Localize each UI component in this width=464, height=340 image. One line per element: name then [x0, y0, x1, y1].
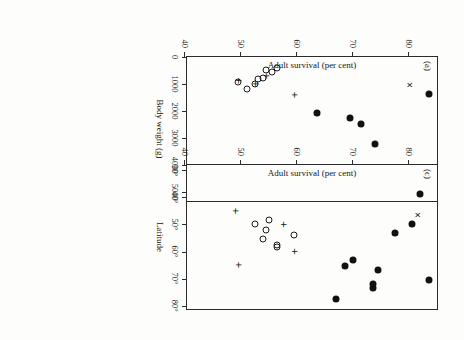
- panel-c-xtick: [182, 252, 187, 253]
- panel-c-point-open-circle: [252, 221, 259, 228]
- panel-c-ytick-label: 70: [348, 148, 358, 157]
- panel-c-point-plus: +: [290, 247, 299, 256]
- panel-c-ytick: [352, 160, 353, 165]
- panel-a-ytick: [296, 52, 297, 57]
- panel-a-point-plus: +: [262, 71, 271, 80]
- panel-a-point-cross: ×: [405, 80, 414, 89]
- panel-c-xtick-label: 40°: [170, 191, 180, 203]
- panel-a-point-plus: +: [251, 80, 260, 89]
- panel-c-xtick-label: 30°: [170, 164, 180, 176]
- panel-c-point-filled-circle: [408, 221, 415, 228]
- panel-c-xtick-label: 80°: [170, 300, 180, 312]
- panel-a-ytick: [184, 52, 185, 57]
- panel-c-point-open-circle: [291, 232, 298, 239]
- panel-c-xtick: [182, 279, 187, 280]
- panel-c-point-open-circle: [274, 241, 281, 248]
- panel-a-xtick: [182, 57, 187, 58]
- panel-c-xtick: [182, 197, 187, 198]
- panel-a-ytick-label: 80: [404, 40, 414, 49]
- panel-c-point-open-circle: [266, 217, 273, 224]
- panel-a-xtick: [182, 84, 187, 85]
- panel-c-xtick-label: 60°: [170, 246, 180, 258]
- panel-c-xtick: [182, 224, 187, 225]
- panel-a-ytick-label: 60: [292, 40, 302, 49]
- panel-c-yaxis-title: Adult survival (per cent): [268, 168, 357, 178]
- panel-c-xaxis-title: Latitude: [155, 165, 165, 309]
- panel-c-plot-frame: (c) ++++× Latitude Adult survival (per c…: [186, 164, 438, 310]
- panel-c-plot-area: ++++×: [187, 165, 437, 309]
- panel-c-ytick-label: 40: [180, 148, 190, 157]
- panel-c-ytick: [296, 160, 297, 165]
- panel-c-ytick: [184, 160, 185, 165]
- panel-c-ytick: [408, 160, 409, 165]
- panel-a-xtick-label: 0: [170, 55, 180, 59]
- panel-a-ytick: [408, 52, 409, 57]
- panel-a-ytick-label: 50: [236, 40, 246, 49]
- figure-stage: (a) ++++× Body weight (g) Adult survival…: [0, 0, 464, 340]
- panel-c-point-plus: +: [279, 220, 288, 229]
- panel-a-xtick-label: 1000: [170, 76, 180, 93]
- panel-c-point-plus: +: [234, 261, 243, 270]
- panel-a-ytick-label: 70: [348, 40, 358, 49]
- panel-c-ytick-label: 50: [236, 148, 246, 157]
- panel-c-ytick-label: 80: [404, 148, 414, 157]
- panel-c-point-filled-circle: [333, 295, 340, 302]
- panel-c-xtick: [182, 170, 187, 171]
- panel-a-ytick-label: 40: [180, 40, 190, 49]
- panel-c-point-filled-circle: [392, 229, 399, 236]
- panel-a-point-plus: +: [290, 90, 299, 99]
- panel-c-point-filled-circle: [425, 276, 432, 283]
- panel-a-ytick: [240, 52, 241, 57]
- panel-c-point-open-circle: [263, 226, 270, 233]
- panel-c-xtick: [182, 306, 187, 307]
- panel-c-point-filled-circle: [369, 280, 376, 287]
- panel-a-yaxis-title: Adult survival (per cent): [268, 60, 357, 70]
- panel-c-ytick-label: 60: [292, 148, 302, 157]
- panel-c-ytick: [240, 160, 241, 165]
- panel-c-point-filled-circle: [375, 267, 382, 274]
- panel-a-ytick: [352, 52, 353, 57]
- panel-c: (c) ++++× Latitude Adult survival (per c…: [124, 108, 464, 340]
- panel-c-point-cross: ×: [413, 211, 422, 220]
- panel-c-point-filled-circle: [350, 256, 357, 263]
- panel-c-point-filled-circle: [341, 263, 348, 270]
- panel-a-point-filled-circle: [425, 91, 432, 98]
- panel-a-point-plus: +: [234, 76, 243, 85]
- panel-c-xtick-label: 50°: [170, 219, 180, 231]
- panel-c-point-plus: +: [231, 206, 240, 215]
- panel-c-xtick-label: 70°: [170, 273, 180, 285]
- panel-c-point-open-circle: [260, 236, 267, 243]
